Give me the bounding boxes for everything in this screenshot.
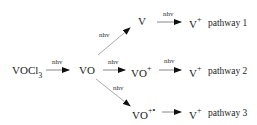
pathway-label-1: pathway 1 — [208, 19, 247, 29]
node-vo-plus-radical-main: VO — [132, 109, 148, 121]
arrow-label-3: nhv — [108, 59, 119, 66]
node-vo-plus: VO+ — [131, 65, 151, 79]
arrow-label-4: nhv — [113, 85, 124, 92]
node-v-plus-2-main: V — [189, 67, 197, 79]
pathway-label-2: pathway 2 — [208, 67, 247, 77]
arrow-label-6: nhv — [164, 58, 175, 65]
node-v: V — [138, 16, 146, 27]
node-v-plus-3-sup: + — [197, 106, 202, 115]
node-vo-plus-radical-sup: +• — [148, 106, 155, 115]
node-vocl3-subscript: 3 — [38, 71, 42, 80]
node-v-plus-1-sup: + — [197, 15, 202, 24]
node-v-plus-3: V+ — [189, 107, 201, 121]
node-vocl3-main: VOCl — [12, 64, 38, 76]
arrow-label-1: nhv — [52, 59, 63, 66]
node-vo-plus-radical: VO+• — [132, 107, 155, 121]
node-v-plus-3-main: V — [189, 109, 197, 121]
node-vocl3: VOCl3 — [12, 65, 42, 80]
node-v-plus-1-main: V — [189, 18, 197, 30]
node-vo-plus-sup: + — [147, 64, 152, 73]
arrow-label-2: nhv — [99, 32, 110, 39]
node-v-plus-1: V+ — [189, 16, 201, 30]
node-v-plus-2-sup: + — [197, 64, 202, 73]
node-vo-plus-main: VO — [131, 67, 147, 79]
node-vo: VO — [79, 65, 95, 76]
node-v-main: V — [138, 15, 146, 27]
arrow-label-5: nhv — [163, 11, 174, 18]
node-vo-main: VO — [79, 64, 95, 76]
node-v-plus-2: V+ — [189, 65, 201, 79]
pathway-label-3: pathway 3 — [208, 109, 247, 119]
